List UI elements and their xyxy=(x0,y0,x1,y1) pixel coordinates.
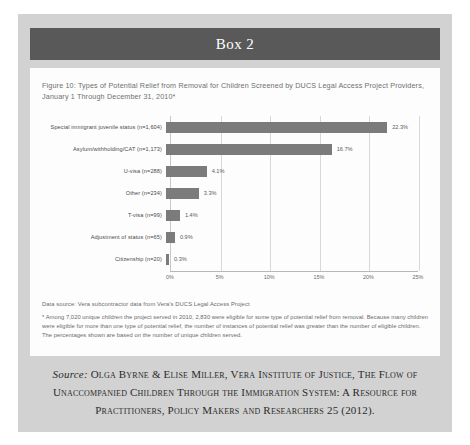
bar-value-label: 0.3% xyxy=(174,256,187,262)
x-axis: 0%5%10%15%20%25% xyxy=(170,271,418,286)
x-axis-tick-label: 25% xyxy=(413,274,424,280)
bar-value-label: 0.9% xyxy=(180,234,193,240)
data-source-text: Data source: Vera subcontractor data fro… xyxy=(42,300,430,309)
bar-wrapper: 4.1% xyxy=(166,160,432,182)
bar xyxy=(166,122,387,133)
x-axis-tick-label: 0% xyxy=(166,274,174,280)
x-axis-tick-label: 5% xyxy=(216,274,224,280)
box-page: Box 2 Figure 10: Types of Potential Reli… xyxy=(18,14,452,432)
bar-value-label: 4.1% xyxy=(212,168,225,174)
bar-wrapper: 1.4% xyxy=(166,204,432,226)
box-title: Box 2 xyxy=(216,36,254,53)
bar-category-label: Other (n=234) xyxy=(40,190,166,196)
figure-footnotes: Data source: Vera subcontractor data fro… xyxy=(42,300,430,341)
bar-category-label: Citizenship (n=20) xyxy=(40,256,166,262)
figure-caption: Figure 10: Types of Potential Relief fro… xyxy=(42,80,426,102)
bar-value-label: 16.7% xyxy=(337,146,353,152)
source-label: Source: xyxy=(53,368,88,380)
bar-category-label: Special immigrant juvenile status (n=1,6… xyxy=(40,124,166,130)
x-axis-tick-label: 15% xyxy=(313,274,324,280)
bar xyxy=(166,232,175,243)
chart-row: Other (n=234)3.3% xyxy=(40,182,432,204)
bar-category-label: Adjustment of status (n=65) xyxy=(40,234,166,240)
bar-category-label: U-visa (n=288) xyxy=(40,168,166,174)
chart-rows: Special immigrant juvenile status (n=1,6… xyxy=(40,116,432,271)
box-header: Box 2 xyxy=(30,28,440,60)
bar-chart: Special immigrant juvenile status (n=1,6… xyxy=(40,116,432,288)
chart-row: Special immigrant juvenile status (n=1,6… xyxy=(40,116,432,138)
source-citation: Source: Olga Byrne & Elise Miller, Vera … xyxy=(42,366,428,419)
bar-category-label: T-visa (n=99) xyxy=(40,212,166,218)
bar-wrapper: 3.3% xyxy=(166,182,432,204)
bar xyxy=(166,188,199,199)
bar xyxy=(166,166,207,177)
chart-row: T-visa (n=99)1.4% xyxy=(40,204,432,226)
chart-row: Asylum/withholding/CAT (n=1,173)16.7% xyxy=(40,138,432,160)
x-axis-tick-label: 10% xyxy=(264,274,275,280)
bar-value-label: 1.4% xyxy=(185,212,198,218)
citation-text: Olga Byrne & Elise Miller, Vera Institut… xyxy=(53,368,418,416)
bar xyxy=(166,210,180,221)
x-axis-tick-label: 20% xyxy=(363,274,374,280)
bar-value-label: 22.3% xyxy=(392,124,408,130)
bar-wrapper: 0.3% xyxy=(166,248,432,270)
bar-value-label: 3.3% xyxy=(204,190,217,196)
bar-wrapper: 0.9% xyxy=(166,226,432,248)
bar xyxy=(166,144,332,155)
chart-row: U-visa (n=288)4.1% xyxy=(40,160,432,182)
chart-row: Adjustment of status (n=65)0.9% xyxy=(40,226,432,248)
figure-footnote-text: * Among 7,020 unique children the projec… xyxy=(42,313,430,341)
chart-row: Citizenship (n=20)0.3% xyxy=(40,248,432,270)
bar-wrapper: 22.3% xyxy=(166,116,432,138)
figure-panel: Figure 10: Types of Potential Relief fro… xyxy=(30,68,440,356)
bar-category-label: Asylum/withholding/CAT (n=1,173) xyxy=(40,146,166,152)
bar xyxy=(166,254,169,265)
bar-wrapper: 16.7% xyxy=(166,138,432,160)
